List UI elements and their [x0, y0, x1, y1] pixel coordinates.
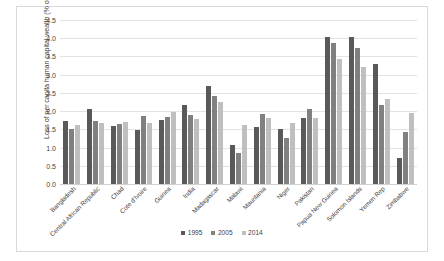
- y-axis-tick-label: 1.0: [46, 144, 56, 151]
- y-axis-tick-label: 2.0: [46, 108, 56, 115]
- bar[interactable]: [278, 129, 283, 184]
- bar[interactable]: [242, 125, 247, 184]
- bar[interactable]: [325, 37, 330, 184]
- x-axis-tick-label: Pakistan: [293, 185, 315, 207]
- bar[interactable]: [307, 109, 312, 184]
- chart-legend: 199520052014: [17, 229, 427, 236]
- plot-area: 4.54.03.53.02.52.01.51.00.50.0: [60, 20, 417, 184]
- bar[interactable]: [301, 118, 306, 184]
- bar[interactable]: [182, 105, 187, 184]
- bar[interactable]: [93, 121, 98, 184]
- bar-group: [60, 20, 84, 184]
- bar[interactable]: [147, 123, 152, 184]
- bar-group: [250, 20, 274, 184]
- bar[interactable]: [218, 102, 223, 184]
- y-axis-tick-label: 1.5: [46, 126, 56, 133]
- y-axis-tick-label: 3.0: [46, 71, 56, 78]
- bar[interactable]: [260, 114, 265, 184]
- bar[interactable]: [355, 48, 360, 184]
- bar[interactable]: [194, 119, 199, 184]
- x-axis-tick-label: Mauritania: [242, 185, 268, 211]
- legend-item[interactable]: 2014: [242, 229, 263, 236]
- bar[interactable]: [337, 59, 342, 184]
- bar[interactable]: [159, 120, 164, 184]
- bar[interactable]: [188, 115, 193, 184]
- bar-group: [322, 20, 346, 184]
- bar[interactable]: [75, 125, 80, 184]
- bar[interactable]: [230, 145, 235, 184]
- bar[interactable]: [290, 123, 295, 184]
- y-axis-tick-label: 0.0: [46, 181, 56, 188]
- legend-swatch-icon: [181, 231, 185, 235]
- bar[interactable]: [409, 113, 414, 184]
- bar[interactable]: [236, 153, 241, 184]
- bar[interactable]: [361, 67, 366, 184]
- bar[interactable]: [397, 158, 402, 184]
- bars-layer: [60, 20, 417, 184]
- bar[interactable]: [385, 99, 390, 184]
- bar-group: [274, 20, 298, 184]
- bar-group: [108, 20, 132, 184]
- x-axis-tick-label: Malawi: [225, 185, 244, 204]
- bar[interactable]: [349, 37, 354, 184]
- legend-label: 2014: [248, 229, 263, 236]
- bar-group: [227, 20, 251, 184]
- bar[interactable]: [313, 118, 318, 184]
- bar-group: [131, 20, 155, 184]
- bar[interactable]: [266, 118, 271, 184]
- bar[interactable]: [254, 127, 259, 184]
- y-axis-tick-label: 3.5: [46, 53, 56, 60]
- bar[interactable]: [403, 132, 408, 184]
- bar[interactable]: [117, 124, 122, 184]
- bar[interactable]: [111, 126, 116, 184]
- bar[interactable]: [171, 112, 176, 184]
- x-axis-tick-label: Niger: [275, 185, 291, 201]
- y-axis-tick-label: 2.5: [46, 89, 56, 96]
- bar-group: [84, 20, 108, 184]
- bar-group: [393, 20, 417, 184]
- bar[interactable]: [63, 121, 68, 184]
- bar[interactable]: [69, 129, 74, 184]
- legend-swatch-icon: [211, 231, 215, 235]
- bar[interactable]: [141, 116, 146, 185]
- bar[interactable]: [135, 130, 140, 184]
- bar[interactable]: [87, 109, 92, 184]
- bar[interactable]: [373, 64, 378, 184]
- bar[interactable]: [165, 117, 170, 184]
- bar[interactable]: [284, 138, 289, 184]
- bar[interactable]: [212, 96, 217, 184]
- chart-container: Loss of per capita human capital wealth …: [16, 6, 428, 252]
- bar[interactable]: [206, 86, 211, 184]
- legend-swatch-icon: [242, 231, 246, 235]
- legend-item[interactable]: 1995: [181, 229, 202, 236]
- bar[interactable]: [331, 43, 336, 184]
- bar[interactable]: [99, 123, 104, 184]
- legend-label: 2005: [218, 229, 233, 236]
- x-axis-tick-label: Guinea: [153, 185, 172, 204]
- y-axis-tick-label: 0.5: [46, 162, 56, 169]
- y-axis-tick-label: 4.0: [46, 35, 56, 42]
- bar-group: [179, 20, 203, 184]
- x-axis-tick-label: Chad: [109, 185, 125, 201]
- bar-group: [369, 20, 393, 184]
- x-axis-tick-label: Zimbabwe: [385, 185, 411, 211]
- bar-group: [155, 20, 179, 184]
- legend-label: 1995: [188, 229, 203, 236]
- legend-item[interactable]: 2005: [211, 229, 232, 236]
- bar-group: [298, 20, 322, 184]
- bar[interactable]: [379, 105, 384, 184]
- bar-group: [346, 20, 370, 184]
- bar[interactable]: [123, 122, 128, 184]
- bar-group: [203, 20, 227, 184]
- y-axis-tick-label: 4.5: [46, 17, 56, 24]
- x-axis-tick-label: India: [181, 185, 196, 200]
